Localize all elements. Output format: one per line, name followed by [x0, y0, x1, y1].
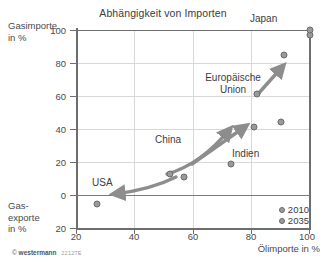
x-tick-label-80: 80: [236, 231, 266, 242]
x-axis-title: Ölimporte in %: [258, 243, 320, 254]
legend-dot-icon-2010: [279, 207, 285, 213]
y-axis-title-bottom-line2: exporte: [8, 212, 40, 224]
legend-dot-icon-2035: [279, 218, 285, 224]
annotation-usa: USA: [92, 177, 113, 189]
y-tick-label-0: 0: [26, 190, 66, 201]
data-points-layer: [76, 30, 310, 228]
point-usa-2010: [93, 200, 100, 207]
point-indien-2010: [228, 160, 235, 167]
x-tick-label-60: 60: [178, 231, 208, 242]
point-indien-2035: [277, 119, 284, 126]
legend: 2010 2035: [279, 204, 309, 226]
y-tick-label-100: 100: [26, 25, 66, 36]
figure-code: 22127E: [61, 250, 81, 256]
x-tick-label-100: 100: [292, 231, 322, 242]
annotation-japan: Japan: [250, 13, 277, 25]
annotation-eu-line1: Europäische: [190, 72, 276, 84]
x-tick-label-40: 40: [119, 231, 149, 242]
y-tick-label-20: 20: [26, 157, 66, 168]
y-axis-title-bottom-line1: Gas-: [8, 200, 40, 212]
publisher-name: westermann: [19, 249, 57, 256]
point-china-2010: [166, 170, 173, 177]
point-eu-2035: [280, 51, 287, 58]
y-tick-label-40: 40: [26, 124, 66, 135]
copyright-symbol: ©: [12, 249, 17, 256]
legend-item-2010: 2010: [279, 204, 309, 215]
x-tick-label-20: 20: [61, 231, 91, 242]
point-usa-2035: [181, 173, 188, 180]
y-tick-label-minus20: 20: [26, 223, 66, 234]
chart-figure: Abhängigkeit von Importen Gasimporte in …: [0, 0, 326, 262]
annotation-europaeische-union: Europäische Union: [190, 72, 276, 95]
legend-item-2035: 2035: [279, 215, 309, 226]
legend-label-2010: 2010: [288, 204, 309, 215]
annotation-eu-line2: Union: [190, 84, 276, 96]
legend-label-2035: 2035: [288, 215, 309, 226]
annotation-china: China: [155, 134, 181, 146]
point-china-2035: [251, 124, 258, 131]
y-tick-label-60: 60: [26, 91, 66, 102]
credit-line: © westermann 22127E: [12, 249, 82, 256]
point-japan-2035: [307, 27, 314, 34]
y-tick-label-80: 80: [26, 58, 66, 69]
annotation-indien: Indien: [232, 148, 259, 160]
